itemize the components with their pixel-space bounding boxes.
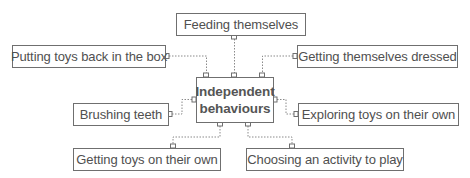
node-getting-toys: Getting toys on their own bbox=[73, 148, 221, 171]
node-label: Getting toys on their own bbox=[76, 152, 217, 167]
node-label: Choosing an activity to play bbox=[247, 152, 402, 167]
node-label: Exploring toys on their own bbox=[302, 107, 455, 122]
node-exploring-toys: Exploring toys on their own bbox=[298, 103, 459, 126]
node-getting-dressed: Getting themselves dressed bbox=[297, 45, 458, 68]
node-feeding-themselves: Feeding themselves bbox=[176, 13, 306, 36]
center-node-independent-behaviours: Independent behaviours bbox=[196, 77, 274, 123]
node-label: Getting themselves dressed bbox=[298, 49, 457, 64]
node-putting-toys-back: Putting toys back in the box bbox=[12, 45, 166, 68]
node-choosing-activity: Choosing an activity to play bbox=[246, 148, 404, 171]
center-label-line2: behaviours bbox=[199, 100, 270, 117]
node-label: Putting toys back in the box bbox=[11, 49, 167, 64]
node-label: Brushing teeth bbox=[80, 107, 162, 122]
node-brushing-teeth: Brushing teeth bbox=[73, 103, 169, 126]
node-label: Feeding themselves bbox=[184, 17, 299, 32]
center-label-line1: Independent bbox=[195, 83, 274, 100]
